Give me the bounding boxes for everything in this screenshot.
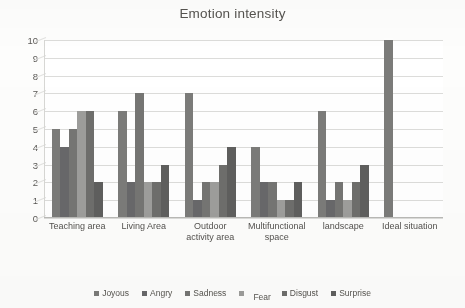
bar[interactable] bbox=[326, 200, 335, 218]
bar-top-cap bbox=[185, 91, 194, 93]
legend-label: Surprise bbox=[339, 288, 371, 298]
bar-group bbox=[244, 40, 311, 218]
legend-item-disgust[interactable]: Disgust bbox=[282, 288, 318, 298]
x-category-label: Outdoor activity area bbox=[177, 221, 244, 253]
y-tick-label: 8 bbox=[0, 70, 38, 81]
bar-top-cap bbox=[77, 109, 86, 111]
bar-top-cap bbox=[135, 91, 144, 93]
bar[interactable] bbox=[318, 111, 327, 218]
bar[interactable] bbox=[60, 147, 69, 218]
bar-face bbox=[69, 129, 78, 218]
legend-item-sadness[interactable]: Sadness bbox=[185, 288, 226, 298]
bar-top-cap bbox=[94, 180, 103, 182]
legend-item-joyous[interactable]: Joyous bbox=[94, 288, 129, 298]
emotion-intensity-chart: Emotion intensity 109876543210 Teaching … bbox=[0, 0, 465, 308]
bar-face bbox=[294, 182, 303, 218]
bar[interactable] bbox=[161, 165, 170, 218]
bar-face bbox=[285, 200, 294, 218]
bar-face bbox=[202, 182, 211, 218]
bar-face bbox=[185, 93, 194, 218]
bar-face bbox=[144, 182, 153, 218]
bar-top-cap bbox=[202, 180, 211, 182]
bar-face bbox=[210, 182, 219, 218]
bar[interactable] bbox=[285, 200, 294, 218]
bar-face bbox=[384, 40, 393, 218]
bar-top-cap bbox=[326, 198, 335, 200]
bar[interactable] bbox=[94, 182, 103, 218]
bar-top-cap bbox=[268, 180, 277, 182]
bar-group-bars bbox=[318, 40, 369, 218]
x-category-label: Living Area bbox=[111, 221, 178, 253]
bar[interactable] bbox=[268, 182, 277, 218]
bar-top-cap bbox=[384, 38, 393, 40]
legend-item-angry[interactable]: Angry bbox=[142, 288, 172, 298]
bar-top-cap bbox=[127, 180, 136, 182]
bar[interactable] bbox=[251, 147, 260, 218]
bar-face bbox=[277, 200, 286, 218]
bar-top-cap bbox=[161, 163, 170, 165]
bar-top-cap bbox=[285, 198, 294, 200]
y-tick-label: 10 bbox=[0, 35, 38, 46]
bar[interactable] bbox=[384, 40, 393, 218]
bar[interactable] bbox=[52, 129, 61, 218]
y-tick-label: 1 bbox=[0, 195, 38, 206]
bar-face bbox=[318, 111, 327, 218]
bar[interactable] bbox=[360, 165, 369, 218]
x-category-label: Ideal situation bbox=[377, 221, 444, 253]
x-category-label: landscape bbox=[310, 221, 377, 253]
bar-top-cap bbox=[69, 127, 78, 129]
bar-face bbox=[268, 182, 277, 218]
legend-swatch-icon bbox=[142, 291, 147, 296]
bar[interactable] bbox=[210, 182, 219, 218]
bar-top-cap bbox=[227, 145, 236, 147]
bar-group-bars bbox=[384, 40, 435, 218]
x-axis-line bbox=[44, 217, 443, 218]
bar-top-cap bbox=[343, 198, 352, 200]
bar-group bbox=[177, 40, 244, 218]
y-axis-tick-labels: 109876543210 bbox=[0, 40, 38, 218]
bar[interactable] bbox=[277, 200, 286, 218]
bar-top-cap bbox=[251, 145, 260, 147]
bar-top-cap bbox=[52, 127, 61, 129]
bar[interactable] bbox=[185, 93, 194, 218]
bar[interactable] bbox=[118, 111, 127, 218]
bar[interactable] bbox=[343, 200, 352, 218]
bar[interactable] bbox=[127, 182, 136, 218]
bar-top-cap bbox=[144, 180, 153, 182]
bar-top-cap bbox=[260, 180, 269, 182]
bar-face bbox=[60, 147, 69, 218]
bar[interactable] bbox=[86, 111, 95, 218]
bar-face bbox=[251, 147, 260, 218]
bar[interactable] bbox=[135, 93, 144, 218]
bar-face bbox=[118, 111, 127, 218]
plot-area bbox=[44, 40, 443, 218]
bar[interactable] bbox=[219, 165, 228, 218]
bar-face bbox=[77, 111, 86, 218]
bar[interactable] bbox=[152, 182, 161, 218]
bar-group-bars bbox=[52, 40, 103, 218]
bar-group bbox=[310, 40, 377, 218]
legend-item-fear[interactable]: Fear bbox=[239, 288, 264, 298]
bar[interactable] bbox=[227, 147, 236, 218]
bar-group bbox=[44, 40, 111, 218]
bar[interactable] bbox=[335, 182, 344, 218]
bar-face bbox=[193, 200, 202, 218]
bar[interactable] bbox=[260, 182, 269, 218]
legend-label: Joyous bbox=[102, 288, 129, 298]
legend-swatch-icon bbox=[331, 291, 336, 296]
bar[interactable] bbox=[202, 182, 211, 218]
y-tick-label: 7 bbox=[0, 88, 38, 99]
bar[interactable] bbox=[294, 182, 303, 218]
bar[interactable] bbox=[69, 129, 78, 218]
y-tick-label: 0 bbox=[0, 213, 38, 224]
bar-top-cap bbox=[277, 198, 286, 200]
bar-group bbox=[111, 40, 178, 218]
legend-item-surprise[interactable]: Surprise bbox=[331, 288, 371, 298]
bar[interactable] bbox=[352, 182, 361, 218]
bar[interactable] bbox=[193, 200, 202, 218]
bar[interactable] bbox=[144, 182, 153, 218]
bar-face bbox=[335, 182, 344, 218]
bar-top-cap bbox=[193, 198, 202, 200]
bar[interactable] bbox=[77, 111, 86, 218]
y-tick-label: 9 bbox=[0, 52, 38, 63]
